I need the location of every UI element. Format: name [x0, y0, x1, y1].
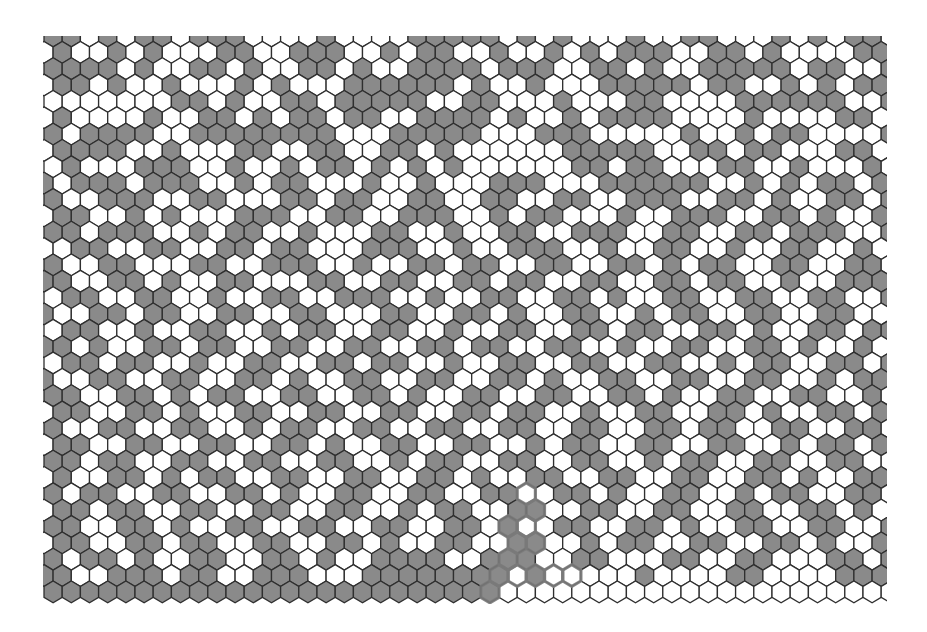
hex-cells[interactable]	[35, 25, 900, 603]
hex-cell-filled[interactable]	[353, 581, 371, 603]
hex-cell-empty[interactable]	[772, 581, 790, 603]
hex-cell-empty[interactable]	[590, 581, 608, 603]
hex-cell-filled[interactable]	[335, 581, 353, 603]
hex-cell-filled[interactable]	[190, 581, 208, 603]
hex-cell-empty[interactable]	[717, 581, 735, 603]
hex-cell-empty[interactable]	[863, 581, 881, 603]
hex-cell-empty[interactable]	[608, 581, 626, 603]
hex-cell-empty[interactable]	[808, 581, 826, 603]
hex-cell-filled[interactable]	[444, 581, 462, 603]
hex-cell-filled[interactable]	[171, 581, 189, 603]
hex-cell-filled[interactable]	[299, 581, 317, 603]
hex-cell-empty[interactable]	[681, 581, 699, 603]
hex-cell-filled[interactable]	[117, 581, 135, 603]
hex-cell-filled[interactable]	[281, 581, 299, 603]
hex-cell-filled[interactable]	[372, 581, 390, 603]
hex-cell-empty[interactable]	[663, 581, 681, 603]
hex-cell-filled[interactable]	[426, 581, 444, 603]
hex-cell-filled[interactable]	[153, 581, 171, 603]
hex-cell-filled[interactable]	[99, 581, 117, 603]
hex-cell-empty[interactable]	[790, 581, 808, 603]
hex-cell-empty[interactable]	[827, 581, 845, 603]
hex-cell-filled[interactable]	[390, 581, 408, 603]
hex-cell-filled[interactable]	[408, 581, 426, 603]
hex-cell-filled[interactable]	[80, 581, 98, 603]
hex-cell-empty[interactable]	[754, 581, 772, 603]
hex-cell-empty[interactable]	[845, 581, 863, 603]
hex-cell-filled[interactable]	[317, 581, 335, 603]
hex-cell-filled[interactable]	[244, 581, 262, 603]
hex-cell-empty[interactable]	[736, 581, 754, 603]
hex-cell-filled[interactable]	[262, 581, 280, 603]
hex-board[interactable]	[0, 0, 927, 632]
hex-cell-empty[interactable]	[881, 581, 899, 603]
hex-cell-empty[interactable]	[626, 581, 644, 603]
hex-cell-empty[interactable]	[645, 581, 663, 603]
hex-cell-filled[interactable]	[226, 581, 244, 603]
hex-cell-filled[interactable]	[62, 581, 80, 603]
hex-cell-empty[interactable]	[699, 581, 717, 603]
hex-cell-filled[interactable]	[463, 581, 481, 603]
hex-cell-filled[interactable]	[135, 581, 153, 603]
hex-cell-filled[interactable]	[44, 581, 62, 603]
hex-cell-filled[interactable]	[208, 581, 226, 603]
